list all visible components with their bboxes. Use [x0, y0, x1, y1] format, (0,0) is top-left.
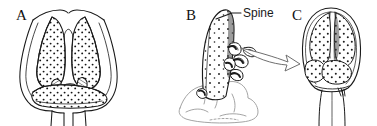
- lobe-left: [37, 17, 66, 89]
- basal-stalk-left-bridge: [52, 111, 64, 113]
- basal-crease-c: [315, 86, 349, 89]
- stalk-tuft-c: [338, 88, 345, 96]
- basal-stalk-right-bridge: [73, 111, 85, 113]
- basal-fold-5: [220, 114, 246, 116]
- median-cleft-apex: [64, 29, 73, 36]
- figure-root: A B C Spine: [0, 0, 377, 126]
- knob-4: [230, 69, 243, 80]
- panel-label-a: A: [16, 8, 27, 23]
- panel-label-b: B: [186, 8, 196, 23]
- capsule-outline-top-left: [33, 10, 68, 20]
- lobe-lower-right-c: [322, 60, 351, 84]
- basal-stalk-right-outer: [85, 111, 86, 126]
- basal-fold-4: [186, 109, 208, 112]
- basal-fold-3: [232, 94, 235, 112]
- annotation-label-spine: Spine: [243, 7, 274, 19]
- lower-transverse-lobe: [32, 85, 107, 108]
- panel-label-c: C: [292, 8, 302, 23]
- stalk-left-c: [319, 90, 322, 126]
- basal-fold-6: [210, 119, 238, 121]
- basal-stalk-left-outer: [51, 111, 52, 126]
- capsule-outline-top-right: [69, 10, 104, 20]
- lobe-right: [72, 17, 101, 89]
